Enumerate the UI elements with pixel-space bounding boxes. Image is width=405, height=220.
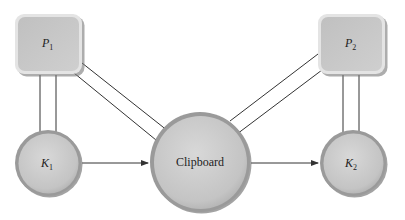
edge-p1-clipboard [74,63,168,140]
edge-p2-k2 [343,75,359,132]
node-k1: K1 [15,130,83,198]
node-k2: K2 [320,130,388,198]
node-p2: P2 [318,14,388,77]
edge-p2-clipboard [230,54,322,134]
node-clipboard: Clipboard [150,112,252,214]
node-p1: P1 [15,14,85,77]
clipboard-diagram: P1 P2 K1 Clipboard K2 [0,0,405,220]
edge-p1-k1 [40,75,56,132]
node-clipboard-label: Clipboard [176,155,224,169]
